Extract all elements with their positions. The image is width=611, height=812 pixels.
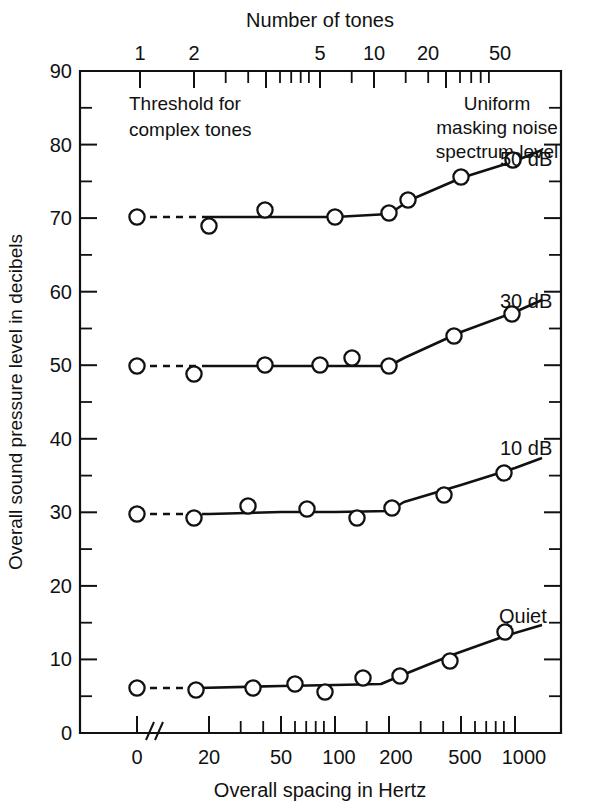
data-point [299, 501, 314, 516]
data-point [257, 357, 272, 372]
series-10db-line [209, 458, 542, 514]
data-point [381, 358, 396, 373]
data-point [317, 684, 332, 699]
top-tick-50: 50 [489, 42, 511, 64]
bottom-tick-20: 20 [198, 746, 220, 768]
bottom-axis-tick-labels: 0 20 50 100 200 500 1000 [131, 746, 546, 768]
series-10db: 10 dB [129, 437, 552, 526]
data-point [129, 209, 144, 224]
y-tick-0: 0 [61, 722, 72, 744]
y-axis-minor-ticks [80, 108, 92, 696]
bottom-axis-title: Overall spacing in Hertz [214, 779, 426, 801]
y-axis-tick-labels: 0 10 20 30 40 50 60 70 80 90 [50, 60, 72, 744]
left-note-line-1: Threshold for [129, 93, 242, 114]
right-note-line-1: Uniform [464, 93, 531, 114]
data-point [327, 209, 342, 224]
left-note-line-2: complex tones [129, 119, 252, 140]
data-point [186, 366, 201, 381]
y-tick-90: 90 [50, 60, 72, 82]
y-tick-80: 80 [50, 134, 72, 156]
data-point [436, 487, 451, 502]
data-point [129, 680, 144, 695]
data-point [446, 328, 461, 343]
data-point [442, 653, 457, 668]
data-point [400, 192, 415, 207]
series-quiet: Quiet [129, 605, 547, 700]
right-note-line-2: masking noise [436, 117, 557, 138]
top-tick-5: 5 [314, 42, 325, 64]
data-point [384, 500, 399, 515]
top-tick-1: 1 [134, 42, 145, 64]
bottom-tick-500: 500 [448, 746, 481, 768]
bottom-tick-200: 200 [379, 746, 412, 768]
series-label-10db: 10 dB [500, 437, 552, 459]
data-point [355, 670, 370, 685]
top-axis-title: Number of tones [246, 9, 394, 31]
data-point [129, 506, 144, 521]
series-label-quiet: Quiet [499, 605, 547, 627]
top-tick-2: 2 [188, 42, 199, 64]
y-tick-30: 30 [50, 501, 72, 523]
y-axis-title: Overall sound pressure level in decibels [5, 234, 26, 570]
series-30db-line [209, 300, 542, 366]
top-axis-tick-labels: 1 2 5 10 20 50 [134, 42, 511, 64]
bottom-tick-100: 100 [322, 746, 355, 768]
data-point [240, 498, 255, 513]
bottom-tick-50: 50 [270, 746, 292, 768]
y-tick-40: 40 [50, 428, 72, 450]
data-point [392, 668, 407, 683]
bottom-axis-major-ticks [137, 716, 515, 733]
bottom-tick-0: 0 [131, 746, 142, 768]
data-point [381, 205, 396, 220]
data-point [186, 510, 201, 525]
top-axis-major-ticks [140, 71, 446, 88]
left-annotation: Threshold for complex tones [129, 93, 252, 140]
chart-svg: 0 10 20 30 40 50 60 70 80 90 Overall sou… [0, 0, 611, 812]
top-tick-20: 20 [417, 42, 439, 64]
data-point [312, 357, 327, 372]
data-point [287, 676, 302, 691]
y-tick-70: 70 [50, 207, 72, 229]
series-label-50db: 50 dB [500, 148, 552, 170]
data-point [257, 202, 272, 217]
data-point [349, 510, 364, 525]
bottom-tick-1000: 1000 [502, 746, 547, 768]
y-tick-50: 50 [50, 354, 72, 376]
data-point [201, 218, 216, 233]
data-point [453, 169, 468, 184]
data-point [496, 465, 511, 480]
y-tick-10: 10 [50, 648, 72, 670]
data-point [344, 350, 359, 365]
top-tick-10: 10 [363, 42, 385, 64]
data-point [188, 682, 203, 697]
y-tick-20: 20 [50, 575, 72, 597]
data-point [129, 358, 144, 373]
y-tick-60: 60 [50, 281, 72, 303]
data-point [245, 680, 260, 695]
series-label-30db: 30 dB [500, 290, 552, 312]
axis-break-icon [146, 722, 163, 740]
figure-container: 0 10 20 30 40 50 60 70 80 90 Overall sou… [0, 0, 611, 812]
series-30db: 30 dB [129, 290, 552, 382]
